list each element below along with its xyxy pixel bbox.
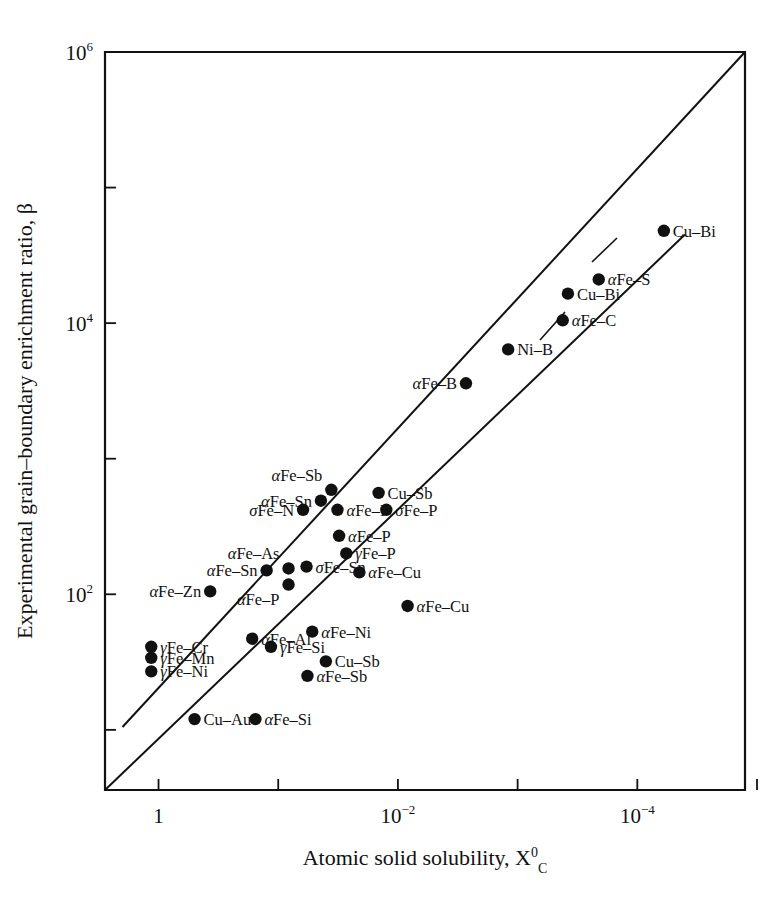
chart-figure: γFe–CrγFe–MnγFe–NiCu–AuαFe–SiαFe–AlγFe–S… bbox=[0, 0, 782, 920]
data-point-label: αFe–Sb bbox=[271, 466, 322, 485]
x-axis-title: Atomic solid solubility, X0C bbox=[303, 845, 548, 876]
data-point-label: Cu–Au bbox=[204, 710, 252, 729]
data-point-marker bbox=[333, 530, 345, 542]
data-point: αFe–Sn bbox=[207, 561, 273, 580]
data-point-label: αFe–Sn bbox=[207, 561, 258, 580]
data-point-label: αFe–Cu bbox=[417, 597, 470, 616]
y-tick-label: 104 bbox=[66, 310, 94, 336]
data-point: αFe–Sb bbox=[301, 667, 367, 686]
data-point-marker bbox=[306, 625, 318, 637]
data-point-label: γFe–Ni bbox=[160, 662, 208, 681]
x-tick-labels-group: 110−210−4 bbox=[153, 802, 655, 828]
data-point-marker bbox=[353, 566, 365, 578]
data-point: Cu–Au bbox=[188, 710, 251, 729]
data-point: Cu–Bi bbox=[658, 222, 717, 241]
y-axis-title-text: Experimental grain–boundary enrichment r… bbox=[12, 203, 37, 639]
data-point: αFe–B bbox=[413, 374, 473, 393]
data-point-marker bbox=[204, 585, 216, 597]
x-axis-title-text: Atomic solid solubility, X0C bbox=[303, 845, 548, 876]
data-point-marker bbox=[300, 560, 312, 572]
data-point-marker bbox=[320, 655, 332, 667]
data-point-marker bbox=[301, 670, 313, 682]
data-point-marker bbox=[401, 600, 413, 612]
data-point-label: Cu–Sb bbox=[388, 484, 433, 503]
data-point-marker bbox=[249, 713, 261, 725]
data-point: γFe–Ni bbox=[145, 662, 208, 681]
data-point-label: αFe–S bbox=[608, 270, 651, 289]
data-point: αFe–Si bbox=[249, 710, 312, 729]
data-point-marker bbox=[246, 633, 258, 645]
data-point-marker bbox=[460, 377, 472, 389]
data-point-marker bbox=[260, 564, 272, 576]
data-points-group: γFe–CrγFe–MnγFe–NiCu–AuαFe–SiαFe–AlγFe–S… bbox=[145, 222, 716, 729]
data-point-marker bbox=[188, 713, 200, 725]
data-point-label: αFe–B bbox=[413, 374, 457, 393]
data-point: αFe–C bbox=[557, 311, 617, 330]
data-point-marker bbox=[562, 287, 574, 299]
x-tick-label: 10−4 bbox=[620, 802, 655, 828]
data-point: αFe–P bbox=[237, 578, 295, 608]
x-tick-label: 1 bbox=[153, 804, 164, 828]
y-tick-label: 106 bbox=[66, 39, 94, 65]
y-axis-title: Experimental grain–boundary enrichment r… bbox=[12, 203, 37, 639]
data-point-label: αFe–Sb bbox=[316, 667, 367, 686]
data-point-label: σFe–P bbox=[395, 501, 437, 520]
data-point: αFe–Sn bbox=[261, 492, 327, 511]
data-point-marker bbox=[331, 504, 343, 516]
data-point-label: αFe–Ni bbox=[321, 623, 371, 642]
data-point-label: αFe–As bbox=[228, 544, 280, 563]
data-point-label: γFe–P bbox=[355, 544, 395, 563]
leader-line bbox=[592, 238, 617, 262]
data-point-marker bbox=[282, 578, 294, 590]
data-point-label: Ni–B bbox=[517, 340, 553, 359]
data-point-marker bbox=[593, 273, 605, 285]
data-point: αFe–P bbox=[333, 527, 391, 546]
data-point-marker bbox=[325, 484, 337, 496]
data-point: Ni–B bbox=[502, 340, 553, 359]
data-point-label: αFe–C bbox=[572, 311, 616, 330]
data-point-label: αFe–Zn bbox=[149, 582, 201, 601]
data-point-marker bbox=[658, 225, 670, 237]
data-point-marker bbox=[372, 487, 384, 499]
data-point-marker bbox=[145, 665, 157, 677]
x-tick-label: 10−2 bbox=[380, 802, 415, 828]
data-point-marker bbox=[282, 562, 294, 574]
data-point: αFe–Cu bbox=[401, 597, 469, 616]
data-point-marker bbox=[145, 641, 157, 653]
y-tick-labels-group: 106104102 bbox=[66, 39, 94, 607]
y-tick-label: 102 bbox=[66, 581, 94, 607]
data-point-marker bbox=[315, 495, 327, 507]
data-point-marker bbox=[557, 314, 569, 326]
data-point-label: αFe–Cu bbox=[368, 563, 421, 582]
data-point-label: αFe–Si bbox=[264, 710, 312, 729]
scatter-plot-svg: γFe–CrγFe–MnγFe–NiCu–AuαFe–SiαFe–AlγFe–S… bbox=[0, 0, 782, 920]
data-point-marker bbox=[380, 504, 392, 516]
data-point-label: αFe–Sn bbox=[261, 492, 312, 511]
data-point-marker bbox=[265, 641, 277, 653]
data-point-marker bbox=[145, 652, 157, 664]
data-point-label: Cu–Bi bbox=[673, 222, 717, 241]
data-point-marker bbox=[340, 547, 352, 559]
data-point: αFe–Zn bbox=[149, 582, 216, 601]
data-point-label: αFe–P bbox=[237, 590, 280, 609]
data-point-marker bbox=[502, 343, 514, 355]
data-point-label: γFe–Si bbox=[280, 638, 325, 657]
data-point-label: αFe–P bbox=[348, 527, 391, 546]
